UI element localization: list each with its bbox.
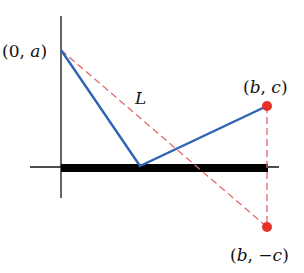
label-point-b-neg-c: (b, −c) <box>230 245 289 265</box>
point-bc <box>262 101 272 111</box>
point-b-neg-c <box>262 222 272 232</box>
label-line-L: L <box>134 88 146 108</box>
dashed-line-L <box>61 50 267 227</box>
label-point-bc: (b, c) <box>243 77 288 97</box>
label-point-a: (0, a) <box>2 41 47 61</box>
diagram-canvas: (0, a) L (b, c) (b, −c) <box>0 0 304 273</box>
reflected-path <box>61 50 267 166</box>
thick-segment <box>61 164 268 172</box>
